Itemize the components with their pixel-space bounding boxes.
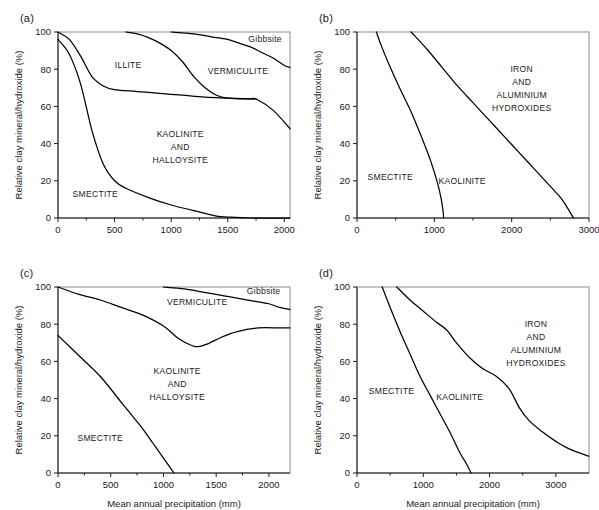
region-label: SMECTITE [369,386,414,396]
x-tick-label: 500 [103,479,119,490]
region-label: ALUMINIUM [511,345,561,355]
y-tick-label: 0 [345,212,350,223]
region-label: KAOLINITE [439,176,486,186]
clay-mineral-precipitation-figure: (a) 0204060801000500100015002000ILLITEVE… [0,0,599,510]
panel-a: (a) 0204060801000500100015002000ILLITEVE… [0,0,300,255]
region-label: KAOLINITE [436,392,483,402]
x-tick-label: 2000 [274,224,295,235]
curve-smectite-kaolinite-boundary [376,32,443,218]
axis-lines [357,287,589,473]
panel-c-label: (c) [20,267,33,279]
y-tick-label: 20 [40,175,51,186]
x-tick-label: 1500 [217,224,238,235]
x-tick-label: 1000 [161,224,182,235]
curve-smectite-kaolinite-boundary [58,335,174,473]
region-label: ILLITE [115,60,142,70]
region-label: ALUMINIUM [496,90,546,100]
curve-kaolinite-hydroxides-boundary [411,32,573,218]
x-tick-label: 1000 [424,224,445,235]
y-tick-label: 80 [339,64,350,75]
plot-frame [357,287,589,473]
y-tick-label: 0 [46,467,51,478]
region-label: KAOLINITE [154,366,201,376]
panel-d: (d) 0204060801000100020003000IRONANDALUM… [299,255,599,510]
y-axis-title: Relative clay mineral/hydroxide (%) [312,306,323,455]
curve-vermiculite-kaolinite-boundary [126,32,290,129]
region-label: AND [168,379,187,389]
y-tick-label: 100 [334,26,350,37]
x-tick-label: 500 [107,224,123,235]
x-tick-label: 0 [354,224,359,235]
y-tick-label: 0 [46,212,51,223]
region-label: IRON [525,319,547,329]
panel-b-label: (b) [319,12,333,24]
x-tick-label: 0 [55,479,60,490]
x-axis-title: Mean annual precipitation (mm) [406,498,540,509]
panel-b-plot: 0204060801000100020003000IRONANDALUMINIU… [299,0,599,255]
region-label: VERMICULITE [208,66,269,76]
panel-b: (b) 0204060801000100020003000IRONANDALUM… [299,0,599,255]
curve-smectite-kaolinite-boundary [382,287,471,473]
y-axis-title: Relative clay mineral/hydroxide (%) [13,51,24,200]
panel-a-label: (a) [20,12,34,24]
y-tick-label: 40 [339,393,350,404]
y-tick-label: 60 [40,101,51,112]
y-tick-label: 0 [345,467,350,478]
y-tick-label: 80 [40,319,51,330]
x-tick-label: 3000 [545,479,566,490]
x-tick-label: 2000 [258,479,279,490]
y-tick-label: 60 [339,356,350,367]
region-label: Gibbsite [247,286,281,296]
region-label: AND [512,77,531,87]
y-tick-label: 20 [40,430,51,441]
y-tick-label: 100 [334,281,350,292]
x-axis-title: Mean annual precipitation (mm) [107,498,241,509]
region-label: AND [171,142,190,152]
y-tick-label: 40 [339,138,350,149]
region-label: KAOLINITE [157,129,204,139]
y-tick-label: 60 [339,101,350,112]
region-label: Gibbsite [248,34,282,44]
y-axis-title: Relative clay mineral/hydroxide (%) [312,51,323,200]
y-tick-label: 100 [35,281,51,292]
region-label: HYDROXIDES [492,103,551,113]
panel-d-label: (d) [319,267,333,279]
x-tick-label: 0 [55,224,60,235]
x-tick-label: 1000 [153,479,174,490]
panel-c: (c) 0204060801000500100015002000VERMICUL… [0,255,300,510]
x-tick-label: 2000 [479,479,500,490]
panel-d-plot: 0204060801000100020003000IRONANDALUMINIU… [299,255,599,510]
y-tick-label: 100 [35,26,51,37]
y-axis-title: Relative clay mineral/hydroxide (%) [13,306,24,455]
y-tick-label: 20 [339,430,350,441]
x-tick-label: 0 [354,479,359,490]
region-label: HALLOYSITE [149,392,205,402]
x-tick-label: 1000 [413,479,434,490]
x-tick-label: 3000 [578,224,599,235]
x-tick-label: 2000 [501,224,522,235]
y-tick-label: 40 [40,393,51,404]
region-label: SMECTITE [368,172,413,182]
region-label: SMECTITE [77,433,122,443]
panel-a-plot: 0204060801000500100015002000ILLITEVERMIC… [0,0,300,255]
y-tick-label: 60 [40,356,51,367]
y-tick-label: 80 [40,64,51,75]
region-label: SMECTITE [73,189,118,199]
y-tick-label: 40 [40,138,51,149]
y-tick-label: 80 [339,319,350,330]
region-label: HALLOYSITE [152,155,208,165]
curve-kaolinite-hydroxides-boundary [397,287,589,456]
region-label: HYDROXIDES [506,358,565,368]
y-tick-label: 20 [339,175,350,186]
region-label: IRON [510,64,532,74]
region-label: VERMICULITE [167,297,228,307]
region-label: AND [527,332,546,342]
x-tick-label: 1500 [206,479,227,490]
panel-c-plot: 0204060801000500100015002000VERMICULITEG… [0,255,300,510]
